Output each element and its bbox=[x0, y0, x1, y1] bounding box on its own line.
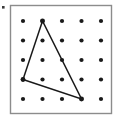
triangle-vertex-bottom-right bbox=[79, 97, 84, 102]
peg-dot bbox=[21, 58, 25, 62]
peg-dot bbox=[21, 97, 25, 101]
peg-dot bbox=[99, 58, 103, 62]
peg-dot bbox=[40, 38, 44, 42]
peg-dot bbox=[79, 38, 83, 42]
peg-dot bbox=[79, 19, 83, 23]
peg-dot bbox=[99, 19, 103, 23]
peg-dot bbox=[99, 97, 103, 101]
peg-dot bbox=[99, 38, 103, 42]
triangle-vertex-left bbox=[21, 77, 26, 82]
triangle-vertex-apex bbox=[40, 19, 45, 24]
peg-dot bbox=[60, 97, 64, 101]
peg-dot bbox=[79, 77, 83, 81]
geoboard-svg bbox=[0, 0, 118, 120]
peg-dot bbox=[79, 58, 83, 62]
peg-dot bbox=[21, 38, 25, 42]
peg-dot bbox=[40, 58, 44, 62]
peg-dot bbox=[40, 77, 44, 81]
peg-dot bbox=[40, 97, 44, 101]
peg-dot bbox=[60, 19, 64, 23]
stray-speck bbox=[2, 6, 5, 9]
peg-dot bbox=[99, 77, 103, 81]
figure-root bbox=[0, 0, 118, 120]
peg-dot bbox=[60, 77, 64, 81]
peg-dot bbox=[21, 19, 25, 23]
peg-dot bbox=[60, 38, 64, 42]
